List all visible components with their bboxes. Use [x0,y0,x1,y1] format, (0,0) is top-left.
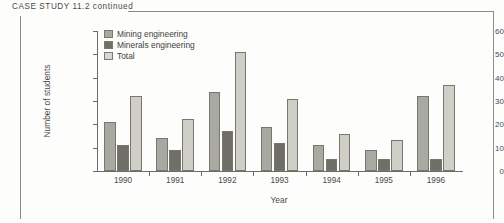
x-axis-line [97,171,463,172]
legend-item: Total [104,51,195,62]
bar [222,131,234,171]
x-axis-tick [358,172,359,176]
bar [443,85,455,171]
bar [365,150,377,171]
legend-item: Mining engineering [104,29,195,40]
chart-legend: Mining engineeringMinerals engineeringTo… [104,29,195,62]
bar [287,99,299,171]
bar-group [410,31,462,171]
x-axis-tick-label: 1993 [270,176,288,185]
bar [417,96,429,171]
bar [117,145,129,171]
legend-swatch-icon [104,52,113,60]
page-frame: CASE STUDY 11.2 continued Number of stud… [0,0,504,223]
bar [130,96,142,171]
bar [313,145,325,171]
x-axis-tick-label: 1994 [323,176,341,185]
frame-top-rule [128,11,494,12]
x-axis-tick-label: 1996 [427,176,445,185]
x-axis-tick-label: 1990 [114,176,132,185]
bar-group [306,31,358,171]
bar-group [358,31,410,171]
x-axis-tick-label: 1992 [218,176,236,185]
legend-swatch-icon [104,30,113,38]
bar-group [201,31,253,171]
y-axis-tick [93,171,97,172]
legend-label: Mining engineering [117,29,188,39]
legend-item: Minerals engineering [104,40,195,51]
bar [430,159,442,171]
case-study-header: CASE STUDY 11.2 continued [12,2,137,11]
bar [209,92,221,171]
x-axis-tick-label: 1991 [166,176,184,185]
x-axis-tick [253,172,254,176]
bar [391,140,403,172]
bar [326,159,338,171]
bar [339,134,351,171]
bar-chart: Number of students Year 0102030405060 19… [0,0,504,223]
x-axis-tick [410,172,411,176]
bar [274,143,286,171]
bar [104,122,116,171]
bar [156,138,168,171]
legend-label: Minerals engineering [117,40,195,50]
x-axis-tick [149,172,150,176]
x-axis-tick [306,172,307,176]
x-axis-tick-label: 1995 [375,176,393,185]
bar [235,52,247,171]
bar-group [253,31,305,171]
bar [169,150,181,171]
legend-swatch-icon [104,41,113,49]
bar [182,119,194,172]
legend-label: Total [117,51,135,61]
bar [261,127,273,171]
x-axis-title: Year [271,195,288,205]
bar [378,159,390,171]
x-axis-tick [201,172,202,176]
y-axis-title: Number of students [42,64,52,137]
